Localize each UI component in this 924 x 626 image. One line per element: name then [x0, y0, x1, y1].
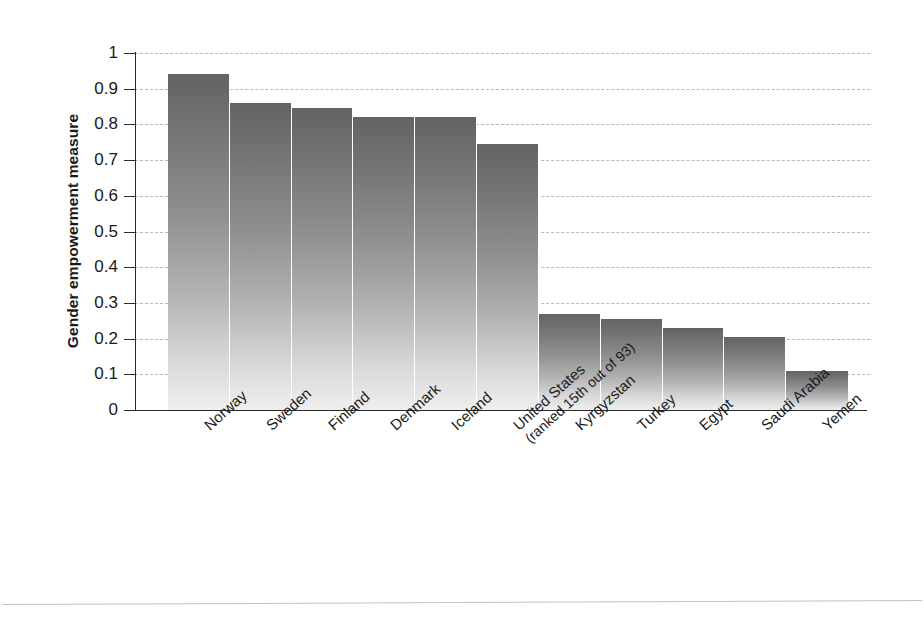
x-axis-category-label: Finland [324, 387, 373, 434]
y-axis-tick-mark [124, 124, 136, 125]
y-axis-tick-mark [124, 267, 136, 268]
x-axis-category-label: Sweden [262, 384, 315, 435]
x-axis-category-label: Turkey [633, 390, 680, 435]
y-axis-tick-mark [124, 374, 136, 375]
x-axis-category-labels: NorwaySwedenFinlandDenmarkIcelandUnited … [0, 0, 924, 626]
category-label-text: Norway [201, 387, 250, 434]
category-label-text: Egypt [695, 395, 735, 433]
y-axis-tick-mark [124, 303, 136, 304]
y-axis-tick-mark [124, 339, 136, 340]
chart-figure: Gender empowerment measure 10.90.80.70.6… [0, 0, 924, 626]
x-axis-category-label: Egypt [695, 394, 736, 434]
y-axis-tick-mark [124, 53, 136, 54]
category-label-text: Iceland [448, 388, 495, 433]
category-label-text: Turkey [634, 390, 679, 433]
category-label-text: Finland [324, 388, 372, 434]
y-axis-tick-mark [124, 89, 136, 90]
x-axis-category-label: Iceland [447, 388, 496, 435]
category-label-text: Yemen [819, 390, 865, 434]
y-axis-tick-mark [124, 160, 136, 161]
category-label-text: Denmark [386, 380, 443, 433]
y-axis-tick-mark [124, 196, 136, 197]
x-axis-category-label: Yemen [818, 389, 865, 434]
y-axis-tick-mark [124, 410, 136, 411]
y-axis-tick-mark [124, 232, 136, 233]
x-axis-category-label: Norway [200, 386, 251, 434]
x-axis-category-label: Denmark [386, 379, 444, 434]
category-label-text: Sweden [263, 384, 315, 433]
